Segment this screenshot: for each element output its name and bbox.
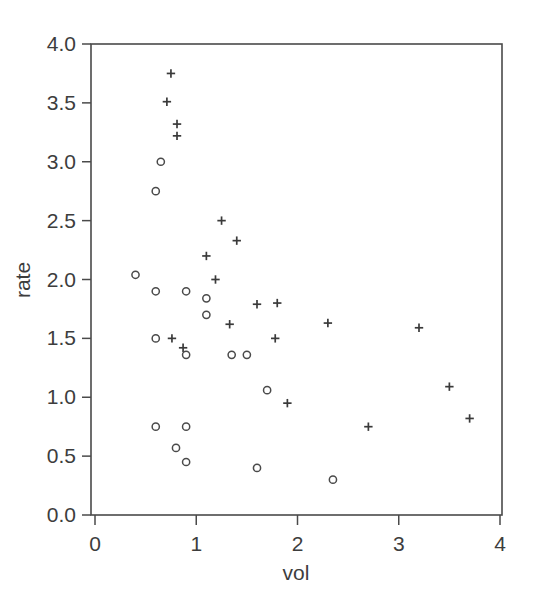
data-point-plus — [273, 299, 281, 307]
data-point-plus — [167, 69, 175, 77]
x-tick-label: 0 — [89, 532, 101, 555]
data-point-plus — [253, 300, 261, 308]
data-point-plus — [364, 422, 372, 430]
data-point-circle — [132, 271, 139, 278]
data-point-plus — [225, 320, 233, 328]
data-point-plus — [283, 399, 291, 407]
data-point-circle — [243, 351, 250, 358]
y-axis-title: rate — [11, 262, 34, 298]
scatter-plot-figure: 0.00.51.01.52.02.53.03.54.0 01234 vol ra… — [0, 0, 543, 604]
data-point-plus — [271, 334, 279, 342]
x-axis-ticks: 01234 — [89, 515, 506, 555]
y-tick-label: 0.5 — [47, 444, 76, 467]
data-point-circle — [183, 288, 190, 295]
data-point-plus — [168, 334, 176, 342]
data-point-circle — [152, 335, 159, 342]
data-point-circle — [152, 288, 159, 295]
x-axis-title: vol — [283, 561, 310, 584]
data-point-plus — [173, 120, 181, 128]
data-point-plus — [324, 319, 332, 327]
data-point-circle — [329, 476, 336, 483]
series-circle-group — [132, 158, 337, 483]
data-point-plus — [445, 382, 453, 390]
y-axis-ticks: 0.00.51.01.52.02.53.03.54.0 — [47, 32, 91, 526]
data-point-plus — [173, 132, 181, 140]
y-tick-label: 4.0 — [47, 32, 76, 55]
y-tick-label: 1.0 — [47, 385, 76, 408]
data-point-circle — [157, 158, 164, 165]
data-point-circle — [172, 444, 179, 451]
x-tick-label: 4 — [494, 532, 506, 555]
y-tick-label: 2.0 — [47, 268, 76, 291]
data-point-plus — [163, 97, 171, 105]
data-point-plus — [465, 414, 473, 422]
data-point-circle — [228, 351, 235, 358]
data-point-circle — [152, 188, 159, 195]
x-tick-label: 3 — [393, 532, 405, 555]
y-tick-label: 1.5 — [47, 326, 76, 349]
plot-canvas: 0.00.51.01.52.02.53.03.54.0 01234 vol ra… — [0, 0, 543, 604]
data-point-plus — [415, 324, 423, 332]
y-tick-label: 3.5 — [47, 91, 76, 114]
data-point-plus — [202, 252, 210, 260]
data-point-circle — [264, 387, 271, 394]
data-point-circle — [203, 295, 210, 302]
data-point-plus — [233, 236, 241, 244]
plot-frame-box — [91, 44, 502, 515]
data-point-circle — [152, 423, 159, 430]
y-tick-label: 2.5 — [47, 209, 76, 232]
data-point-circle — [183, 351, 190, 358]
data-point-circle — [203, 311, 210, 318]
data-point-circle — [183, 458, 190, 465]
data-point-plus — [211, 275, 219, 283]
x-tick-label: 2 — [292, 532, 304, 555]
x-tick-label: 1 — [190, 532, 202, 555]
data-point-plus — [217, 216, 225, 224]
data-markers-layer — [132, 69, 474, 483]
y-tick-label: 3.0 — [47, 150, 76, 173]
data-point-circle — [253, 464, 260, 471]
y-tick-label: 0.0 — [47, 503, 76, 526]
series-plus-group — [163, 69, 474, 431]
data-point-circle — [183, 423, 190, 430]
